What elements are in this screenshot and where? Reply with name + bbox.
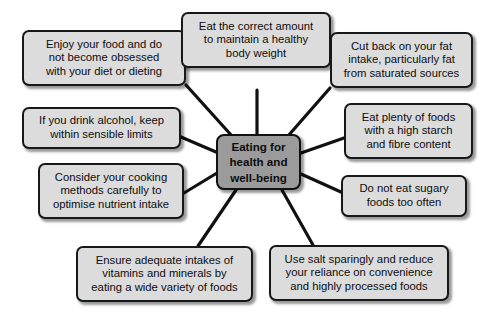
- connector-vitamins-minerals: [198, 190, 236, 246]
- node-label: Ensure adequate intakes of vitamins and …: [91, 254, 237, 295]
- connector-cut-fat: [288, 88, 330, 136]
- connector-salt-processed: [282, 190, 313, 245]
- node-alcohol[interactable]: If you drink alcohol, keep within sensib…: [22, 107, 181, 149]
- node-label: Enjoy your food and do not become obsess…: [46, 38, 162, 79]
- node-label: Consider your cooking methods carefully …: [53, 171, 169, 212]
- node-center-eating-for-health[interactable]: Eating for health and well-being: [216, 134, 301, 190]
- node-starch-fibre[interactable]: Eat plenty of foods with a high starch a…: [344, 103, 473, 159]
- node-vitamins-minerals[interactable]: Ensure adequate intakes of vitamins and …: [76, 246, 253, 302]
- mind-map-diagram: Enjoy your food and do not become obsess…: [0, 0, 497, 319]
- node-label: If you drink alcohol, keep within sensib…: [39, 114, 164, 141]
- node-label: Eat the correct amount to maintain a hea…: [199, 20, 313, 61]
- node-correct-amount[interactable]: Eat the correct amount to maintain a hea…: [181, 12, 331, 68]
- node-cut-fat[interactable]: Cut back on your fat intake, particularl…: [330, 32, 473, 88]
- connector-cooking-methods: [184, 173, 217, 193]
- node-sugary-foods[interactable]: Do not eat sugary foods too often: [341, 175, 467, 217]
- node-label: Use salt sparingly and reduce your relia…: [285, 253, 434, 294]
- node-cooking-methods[interactable]: Consider your cooking methods carefully …: [38, 163, 184, 219]
- node-label: Do not eat sugary foods too often: [359, 182, 448, 209]
- node-label: Cut back on your fat intake, particularl…: [344, 40, 460, 81]
- connector-enjoy-food: [186, 85, 232, 136]
- center-node-label: Eating for health and well-being: [230, 139, 288, 186]
- connector-alcohol: [181, 137, 216, 152]
- connector-starch-fibre: [301, 138, 344, 153]
- node-enjoy-food[interactable]: Enjoy your food and do not become obsess…: [22, 30, 186, 86]
- node-label: Eat plenty of foods with a high starch a…: [362, 111, 456, 152]
- node-salt-processed[interactable]: Use salt sparingly and reduce your relia…: [269, 245, 449, 301]
- connector-sugary-foods: [301, 174, 341, 192]
